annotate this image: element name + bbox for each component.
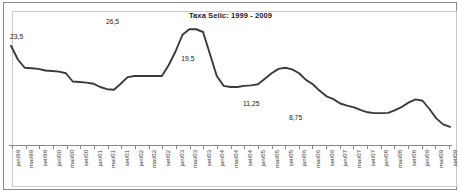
x-axis-tick [12,146,13,149]
x-axis-label: jan/00 [56,150,62,166]
x-axis-tick [299,146,300,149]
x-axis-label: set/04 [247,150,253,166]
x-axis-label: set/05 [288,150,294,166]
x-axis-tick [217,146,218,149]
x-axis-tick [162,146,163,149]
data-label-11-25: 11,25 [243,100,260,107]
x-axis-tick [39,146,40,149]
x-axis-label: jan/99 [15,150,21,166]
x-axis-tick [135,146,136,149]
x-axis-tick [108,146,109,149]
x-axis-label: jan/09 [424,150,430,166]
x-axis-tick [394,146,395,149]
x-axis-tick [272,146,273,149]
x-axis-label: mai/02 [151,150,157,168]
x-axis-label: set/02 [165,150,171,166]
x-axis-tick [435,146,436,149]
x-axis-label: set/03 [206,150,212,166]
chart-data-labels: 23,526,519,511,258,75 [9,18,452,145]
x-axis-tick [121,146,122,149]
x-axis-label: mai/00 [69,150,75,168]
x-axis-tick [231,146,232,149]
chart-x-axis: jan/99mai/99set/99jan/00mai/00set/00jan/… [9,145,452,193]
x-axis-label: mai/09 [438,150,444,168]
data-label-23-5: 23,5 [10,33,23,40]
x-axis-tick [258,146,259,149]
x-axis-tick [80,146,81,149]
x-axis-label: mai/08 [397,150,403,168]
x-axis-label: mai/05 [274,150,280,168]
x-axis-label: jan/01 [97,150,103,166]
data-label-19-5: 19,5 [181,55,194,62]
x-axis-label: jan/06 [301,150,307,166]
x-axis-tick [422,146,423,149]
x-axis-label: set/00 [83,150,89,166]
x-axis-tick [285,146,286,149]
x-axis-label: jan/02 [138,150,144,166]
x-axis-tick [53,146,54,149]
x-axis-tick [367,146,368,149]
x-axis-label: mai/06 [315,150,321,168]
x-axis-label: jan/07 [342,150,348,166]
x-axis-tick [190,146,191,149]
x-axis-label: mai/04 [233,150,239,168]
x-axis-label: mai/07 [356,150,362,168]
x-axis-label: set/09 [452,150,458,166]
x-axis-label: mai/03 [192,150,198,168]
chart-plot-area: 23,526,519,511,258,75 [9,18,452,145]
x-axis-tick [326,146,327,149]
x-axis-tick [408,146,409,149]
x-axis-tick [203,146,204,149]
x-axis-label: set/06 [329,150,335,166]
data-label-26-5: 26,5 [106,18,119,25]
x-axis-tick [94,146,95,149]
x-axis-tick [381,146,382,149]
x-axis-tick [312,146,313,149]
x-axis-label: set/07 [370,150,376,166]
x-axis-label: jan/08 [383,150,389,166]
x-axis-label: mai/01 [110,150,116,168]
x-axis-label: jan/05 [260,150,266,166]
x-axis-tick [353,146,354,149]
x-axis-tick [149,146,150,149]
x-axis-label: mai/99 [28,150,34,168]
x-axis-tick [449,146,450,149]
x-axis-label: set/08 [411,150,417,166]
x-axis-label: jan/04 [219,150,225,166]
x-axis-tick [176,146,177,149]
x-axis-tick [244,146,245,149]
x-axis-label: set/99 [42,150,48,166]
x-axis-tick [340,146,341,149]
x-axis-label: jan/03 [179,150,185,166]
data-label-8-75: 8,75 [289,114,302,121]
x-axis-label: set/01 [124,150,130,166]
x-axis-tick [26,146,27,149]
x-axis-tick [67,146,68,149]
